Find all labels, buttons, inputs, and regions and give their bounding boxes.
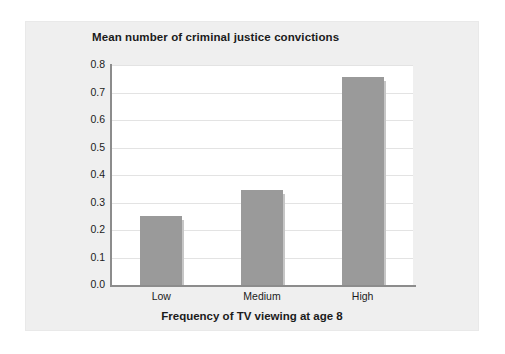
y-tick-label: 0.6 bbox=[71, 113, 105, 125]
x-tick-label: Low bbox=[121, 290, 201, 302]
y-tick-label: 0.2 bbox=[71, 223, 105, 235]
chart-panel: Mean number of criminal justice convicti… bbox=[26, 22, 478, 330]
gridline bbox=[111, 65, 413, 66]
y-tick-label: 0.7 bbox=[71, 86, 105, 98]
y-tick-label: 0.3 bbox=[71, 196, 105, 208]
x-axis-title: Frequency of TV viewing at age 8 bbox=[26, 310, 478, 322]
y-tick-label: 0.1 bbox=[71, 251, 105, 263]
x-tick-label: High bbox=[323, 290, 403, 302]
chart-title: Mean number of criminal justice convicti… bbox=[92, 31, 339, 43]
chart-figure: Mean number of criminal justice convicti… bbox=[0, 0, 505, 354]
y-tick-label: 0.4 bbox=[71, 168, 105, 180]
bar bbox=[241, 190, 283, 285]
x-axis-line bbox=[110, 285, 416, 287]
x-tick-label: Medium bbox=[222, 290, 302, 302]
plot-area bbox=[111, 65, 413, 285]
bar bbox=[140, 216, 182, 285]
y-tick-label: 0.5 bbox=[71, 141, 105, 153]
y-axis-line bbox=[110, 64, 112, 286]
bar bbox=[342, 77, 384, 285]
y-tick-label: 0.8 bbox=[71, 58, 105, 70]
y-tick-label: 0.0 bbox=[71, 278, 105, 290]
